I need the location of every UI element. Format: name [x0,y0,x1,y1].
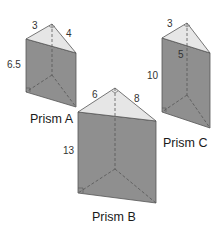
prisms-diagram: 3 4 6.5 Prism A 3 5 10 Prism C 6 8 13 Pr… [0,0,221,235]
prism-b-leg1-label: 6 [92,89,98,100]
prism-b-name: Prism B [92,210,136,224]
prism-c-front-face [162,38,210,128]
prism-a-leg2-label: 4 [66,28,72,39]
prism-b-height-label: 13 [63,145,75,156]
prism-b-leg2-label: 8 [134,93,140,104]
prism-a-height-label: 6.5 [7,59,21,70]
prism-c: 3 5 10 Prism C [147,18,210,150]
prism-b: 6 8 13 Prism B [63,88,156,224]
prism-b-front-face [78,112,156,203]
prism-c-name: Prism C [163,136,207,150]
prism-a: 3 4 6.5 Prism A [7,20,76,126]
prism-c-leg1-label: 3 [167,18,173,29]
prism-a-name: Prism A [30,112,74,126]
prism-c-leg2-label: 5 [178,49,184,60]
prism-a-leg1-label: 3 [32,20,38,31]
prism-c-height-label: 10 [147,70,159,81]
